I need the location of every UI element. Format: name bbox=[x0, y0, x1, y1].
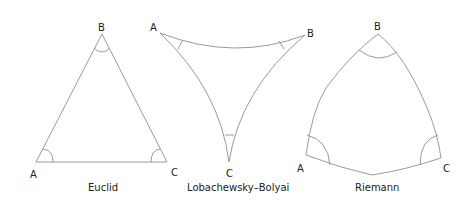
riemann-caption: Riemann bbox=[355, 183, 399, 193]
euclid-vertex-c: C bbox=[171, 168, 178, 178]
euclid-vertex-a: A bbox=[30, 170, 37, 180]
riemann-vertex-a: A bbox=[297, 164, 304, 174]
euclid-angle-c bbox=[151, 149, 160, 162]
lobachevsky-vertex-b: B bbox=[307, 29, 314, 39]
euclid-vertex-b: B bbox=[98, 23, 105, 33]
lobachevsky-caption: Lobachewsky–Bolyai bbox=[187, 183, 289, 193]
euclid-triangle bbox=[36, 34, 167, 162]
lobachevsky-angle-a bbox=[178, 41, 182, 49]
euclid-angle-b bbox=[94, 48, 110, 52]
riemann-vertex-c: C bbox=[443, 164, 450, 174]
riemann-angle-a bbox=[307, 135, 330, 165]
lobachevsky-vertex-c: C bbox=[226, 169, 233, 179]
riemann-triangle bbox=[306, 34, 441, 175]
lobachevsky-triangle bbox=[160, 33, 305, 162]
euclid-angle-a bbox=[43, 149, 53, 162]
lobachevsky-vertex-a: A bbox=[150, 23, 157, 33]
euclid-caption: Euclid bbox=[88, 183, 118, 193]
riemann-vertex-b: B bbox=[374, 22, 381, 32]
geometry-diagrams bbox=[0, 0, 472, 209]
riemann-angle-c bbox=[420, 135, 438, 165]
riemann-angle-b bbox=[359, 50, 397, 58]
